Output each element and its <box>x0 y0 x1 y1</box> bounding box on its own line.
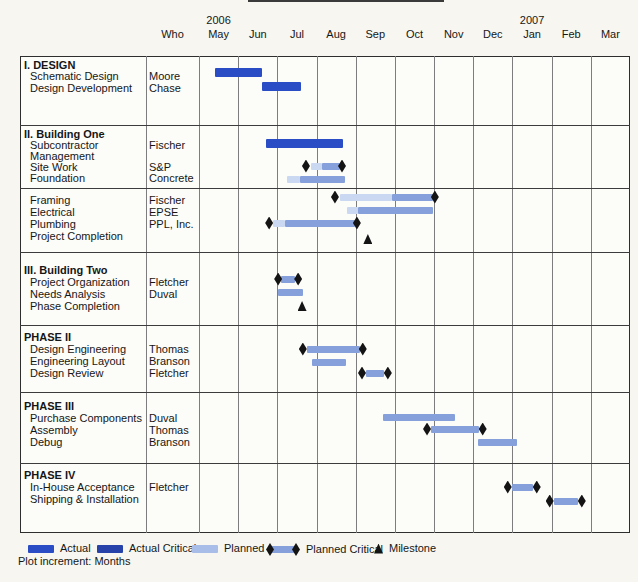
bar-site-work <box>311 163 323 170</box>
section-title-phase-ii: PHASE II <box>24 332 71 343</box>
grid-vline <box>356 56 357 533</box>
bar-design-development <box>262 82 301 91</box>
bar-framing <box>392 194 433 201</box>
who-label-needs-analysis: Duval <box>149 289 177 300</box>
legend-label-actual-critical: Actual Critical <box>129 543 196 554</box>
legend-swatch-actual-critical <box>97 545 123 553</box>
bar-framing <box>340 194 392 201</box>
grid-vline <box>395 56 396 533</box>
task-label-project-organization: Project Organization <box>30 277 130 288</box>
grid-hline <box>20 188 630 189</box>
legend-swatch-planned <box>192 545 218 553</box>
bar-design-engineering <box>307 346 360 353</box>
grid-hline <box>20 392 630 393</box>
legend-milestone-triangle <box>374 544 383 554</box>
month-label-dec: Dec <box>473 29 512 40</box>
grid-vline <box>552 56 553 533</box>
task-label-in-house-acceptance: In-House Acceptance <box>30 482 135 493</box>
grid-hline <box>20 252 630 253</box>
who-label-debug: Branson <box>149 437 190 448</box>
bar-plumbing <box>285 220 354 227</box>
legend-item-actual: Actual <box>28 543 91 554</box>
task-label-schematic-design: Schematic Design <box>30 71 119 82</box>
table-frame <box>20 56 630 533</box>
month-label-oct: Oct <box>395 29 434 40</box>
legend-swatch-planned-critical <box>266 543 300 556</box>
legend-label-planned-critical: Planned Critical <box>306 544 383 555</box>
task-label-design-development: Design Development <box>30 83 132 94</box>
bar-shipping-installation <box>554 498 578 505</box>
plot-increment-note: Plot increment: Months <box>18 556 131 567</box>
month-label-may: May <box>199 29 238 40</box>
task-label-engineering-layout: Engineering Layout <box>30 356 125 367</box>
grid-vline <box>591 56 592 533</box>
who-label-schematic-design: Moore <box>149 71 180 82</box>
who-label-framing: Fischer <box>149 195 185 206</box>
who-label-foundation: Concrete <box>149 173 194 184</box>
task-label-phase-completion: Phase Completion <box>30 301 120 312</box>
who-label-design-review: Fletcher <box>149 368 189 379</box>
bar-site-work <box>322 163 340 170</box>
task-label-debug: Debug <box>30 437 62 448</box>
month-label-sep: Sep <box>356 29 395 40</box>
bar-electrical <box>347 207 358 214</box>
who-label-assembly: Thomas <box>149 425 189 436</box>
grid-vline <box>146 56 147 533</box>
bar-foundation <box>287 176 300 183</box>
section-title-phase-iv: PHASE IV <box>24 470 75 481</box>
bar-subcontractor <box>266 139 343 148</box>
section-title-iii-building-two: III. Building Two <box>24 265 108 276</box>
legend-label-actual: Actual <box>60 543 91 554</box>
grid-hline <box>20 463 630 464</box>
legend-item-planned: Planned <box>192 543 264 554</box>
year-label-2007: 2007 <box>512 15 551 26</box>
who-label-project-organization: Fletcher <box>149 277 189 288</box>
who-label-design-engineering: Thomas <box>149 344 189 355</box>
month-label-jan: Jan <box>512 29 551 40</box>
bar-in-house-acceptance <box>512 484 533 491</box>
task-label-design-review: Design Review <box>30 368 103 379</box>
year-label-2006: 2006 <box>199 15 238 26</box>
task-label-purchase-components: Purchase Components <box>30 413 142 424</box>
who-label-engineering-layout: Branson <box>149 356 190 367</box>
task-label-plumbing: Plumbing <box>30 219 76 230</box>
bar-needs-analysis <box>278 289 303 296</box>
task-label-framing: Framing <box>30 195 70 206</box>
grid-vline <box>473 56 474 533</box>
gantt-chart: Who20062007MayJunJulAugSepOctNovDecJanFe… <box>0 0 638 582</box>
bar-foundation <box>300 176 345 183</box>
bar-assembly <box>431 426 479 433</box>
bar-design-review <box>366 370 384 377</box>
who-label-design-development: Chase <box>149 83 181 94</box>
grid-vline <box>238 56 239 533</box>
legend-item-milestone: Milestone <box>374 543 436 554</box>
grid-vline <box>199 56 200 533</box>
who-label-subcontractor: Fischer <box>149 140 185 151</box>
task-label-project-completion: Project Completion <box>30 231 123 242</box>
task-label-electrical: Electrical <box>30 207 75 218</box>
month-label-aug: Aug <box>317 29 356 40</box>
gantt-chart-page: Who20062007MayJunJulAugSepOctNovDecJanFe… <box>0 0 638 582</box>
task-label-design-engineering: Design Engineering <box>30 344 126 355</box>
bar-project-organization <box>281 276 295 283</box>
legend-swatch-actual <box>28 545 54 553</box>
legend-item-planned-critical: Planned Critical <box>266 543 383 556</box>
who-column-header: Who <box>146 29 199 40</box>
bar-engineering-layout <box>312 359 346 366</box>
who-label-plumbing: PPL, Inc. <box>149 219 194 230</box>
who-label-purchase-components: Duval <box>149 413 177 424</box>
legend-label-milestone: Milestone <box>389 543 436 554</box>
section-title-phase-iii: PHASE III <box>24 401 74 412</box>
task-label-needs-analysis: Needs Analysis <box>30 289 105 300</box>
month-label-mar: Mar <box>591 29 630 40</box>
month-label-nov: Nov <box>434 29 473 40</box>
bar-schematic-design <box>215 68 262 77</box>
month-label-feb: Feb <box>552 29 591 40</box>
bar-plumbing <box>273 220 285 227</box>
bar-electrical <box>358 207 433 214</box>
month-label-jun: Jun <box>238 29 277 40</box>
planned-critical-diamond <box>266 543 274 556</box>
planned-critical-diamond <box>292 543 300 556</box>
bar-debug <box>478 439 517 446</box>
legend-item-actual-critical: Actual Critical <box>97 543 196 554</box>
